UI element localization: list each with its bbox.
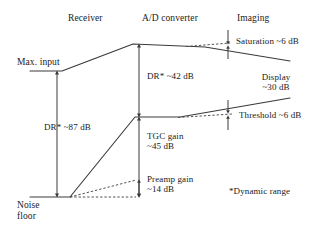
measurement-tgc-gain: TGC gain ~45 dB (147, 131, 184, 151)
saturation-dashed-reference (186, 43, 230, 47)
measurement-dr-87: DR* ~87 dB (44, 122, 91, 132)
measurement-threshold: Threshold ~6 dB (239, 110, 301, 120)
measurement-preamp-gain: Preamp gain ~14 dB (147, 174, 193, 194)
stage-header-receiver: Receiver (68, 13, 103, 24)
measurement-dr-42: DR* ~42 dB (147, 71, 194, 81)
preamp-gain-dashed-lines (70, 180, 136, 197)
upper-envelope-path (30, 44, 290, 71)
dynamic-range-footnote: *Dynamic range (229, 186, 290, 196)
axis-label-max-input: Max. input (17, 57, 60, 68)
measurement-saturation: Saturation ~6 dB (236, 36, 299, 46)
stage-header-adc: A/D converter (142, 13, 198, 24)
dynamic-range-diagram: Receiver A/D converter Imaging Max. inpu… (0, 0, 327, 236)
measurement-display: Display ~30 dB (245, 72, 307, 92)
axis-label-noise-floor: Noise floor (17, 200, 40, 221)
stage-header-imaging: Imaging (237, 13, 269, 24)
